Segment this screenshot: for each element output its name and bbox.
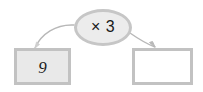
arrow-input-to-operation [35,25,74,48]
input-box: 9 [14,48,71,85]
operation-oval: × 3 [74,9,132,46]
output-box[interactable] [132,48,193,85]
input-value: 9 [38,59,47,76]
function-machine-diagram: 9 × 3 [0,0,203,92]
arrow-operation-to-output [130,33,155,47]
operation-label: × 3 [91,19,115,35]
